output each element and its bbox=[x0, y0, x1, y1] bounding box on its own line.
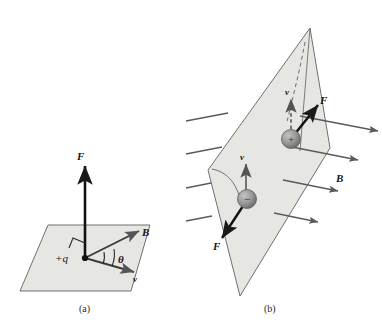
figure-canvas: + − F B v +q θ v F v F B bbox=[0, 0, 382, 327]
panel-a-label-F: F bbox=[76, 150, 85, 162]
physics-figure: + − F B v +q θ v F v F B (a) (b) bbox=[0, 0, 382, 327]
panel-a-label-v: v bbox=[133, 274, 138, 284]
panel-a-label-angle: θ bbox=[118, 253, 124, 265]
panel-a-label-charge: +q bbox=[55, 252, 68, 264]
panel-b-label-negative-F: F bbox=[212, 240, 221, 252]
panel-a-charge-dot bbox=[82, 255, 88, 261]
panel-b-negative-charge-sign: − bbox=[244, 193, 250, 205]
panel-a-caption: (a) bbox=[79, 303, 90, 314]
panel-a-label-B: B bbox=[141, 226, 149, 238]
panel-b-label-B: B bbox=[335, 172, 343, 184]
panel-b-plane bbox=[208, 28, 330, 296]
panel-b-label-positive-F: F bbox=[319, 94, 328, 106]
panel-b-group: + − bbox=[186, 28, 378, 296]
panel-b-caption: (b) bbox=[264, 303, 276, 314]
panel-a-group bbox=[20, 166, 150, 291]
panel-b-positive-charge-sign: + bbox=[288, 134, 294, 145]
